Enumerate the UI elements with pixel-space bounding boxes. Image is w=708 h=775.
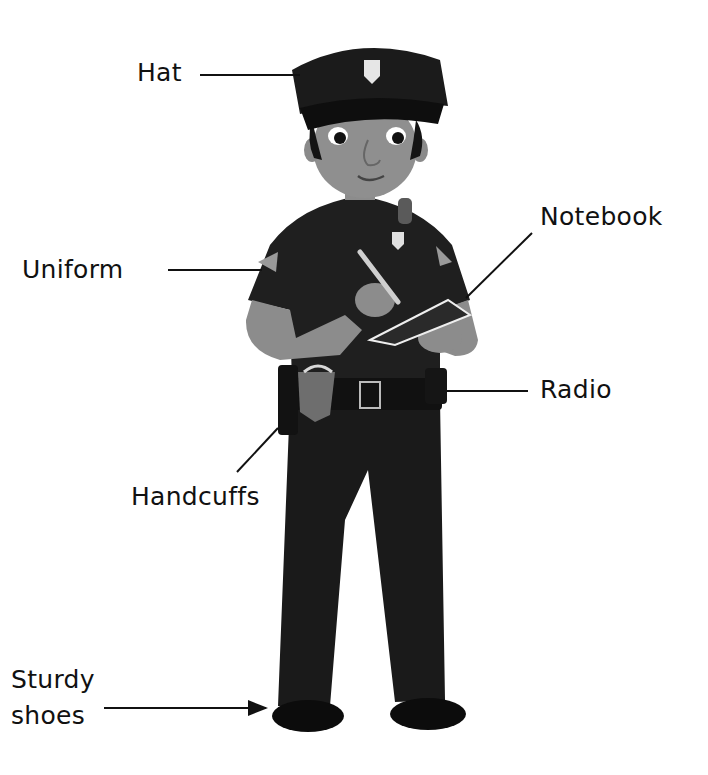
left-shoe: [272, 700, 344, 732]
trousers: [278, 400, 445, 706]
right-shoe: [390, 698, 466, 730]
holster: [278, 365, 298, 435]
label-radio: Radio: [540, 375, 612, 405]
label-notebook: Notebook: [540, 202, 663, 232]
radio: [425, 368, 447, 404]
label-sturdy: Sturdy: [11, 665, 95, 695]
diagram-canvas: Hat Uniform Notebook Radio Handcuffs Stu…: [0, 0, 708, 775]
label-shoes: shoes: [11, 701, 85, 731]
label-handcuffs: Handcuffs: [131, 482, 260, 512]
shoulder-mic: [398, 198, 412, 224]
label-hat: Hat: [137, 58, 182, 88]
label-uniform: Uniform: [22, 255, 123, 285]
